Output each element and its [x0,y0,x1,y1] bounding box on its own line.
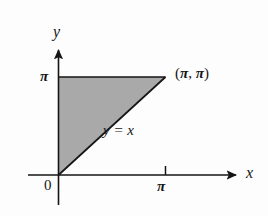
vertex-coordinate-label: (π, π) [175,66,209,81]
coordinate-plane-figure [0,0,268,216]
origin-label: 0 [44,178,52,193]
y-axis-label: y [53,24,60,40]
y-axis-tick-label-pi: π [40,69,48,84]
x-axis-label: x [246,165,253,181]
vertex-close-paren: ) [204,65,209,81]
vertex-y-value: π [196,65,204,81]
vertex-x-value: π [180,65,188,81]
figure-container: y x π π 0 y = x (π, π) [0,0,268,216]
line-equation-label: y = x [103,123,134,138]
x-axis-tick-label-pi: π [157,179,165,194]
vertex-separator: , [188,65,196,81]
